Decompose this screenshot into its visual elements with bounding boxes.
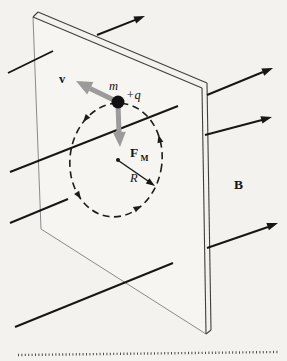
magnetic-field-diagram: v m +q F M R B	[0, 0, 287, 361]
field-line-1-arrowhead-icon	[133, 16, 145, 24]
field-line-4-arrowhead-icon	[266, 223, 278, 230]
field-line-2-right-segment	[207, 72, 263, 95]
field-line-4-right-segment	[207, 227, 268, 248]
plane-face	[33, 17, 206, 334]
particle	[112, 96, 125, 109]
field-line-3-arrowhead-icon	[260, 116, 272, 123]
radius-label: R	[129, 171, 138, 185]
force-label-subscript: M	[141, 153, 149, 163]
field-line-1-right-segment	[97, 20, 136, 35]
force-label: F	[130, 145, 138, 160]
plane-right-edge-back	[207, 83, 211, 330]
field-line-2-arrowhead-icon	[261, 68, 273, 76]
bottom-dotted-rule	[18, 352, 278, 355]
plane-top-corner-left	[33, 12, 38, 17]
velocity-label: v	[59, 72, 66, 86]
mass-label: m	[109, 79, 118, 93]
field-plane	[33, 17, 206, 334]
field-line-3-right-segment	[205, 120, 262, 135]
figure-canvas: v m +q F M R B	[0, 0, 287, 361]
field-label: B	[234, 177, 243, 192]
charge-label: +q	[126, 88, 141, 102]
plane-bottom-corner-right	[206, 330, 211, 334]
